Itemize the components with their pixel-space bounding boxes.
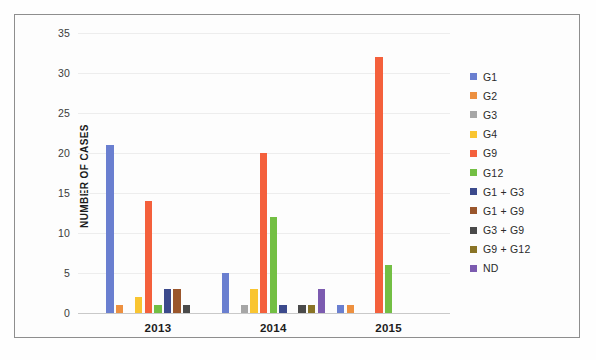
bar-G4-2014	[250, 289, 257, 313]
bar-slot	[278, 33, 288, 313]
legend-item-G1-plus-G3[interactable]: G1 + G3	[470, 182, 570, 201]
bar-slot	[230, 33, 240, 313]
bar-slot	[144, 33, 154, 313]
bar-slot	[307, 33, 317, 313]
bar-slot	[355, 33, 365, 313]
bar-slot	[297, 33, 307, 313]
legend-swatch-icon	[470, 227, 477, 234]
bar-G9-2013	[145, 201, 152, 313]
bar-G12-2014	[270, 217, 277, 313]
x-tick-label-2015: 2015	[375, 322, 402, 334]
legend-item-G9-plus-G12[interactable]: G9 + G12	[470, 240, 570, 259]
bar-slot	[316, 33, 326, 313]
bar-slot	[249, 33, 259, 313]
bar-G9-plus-G12-2014	[308, 305, 315, 313]
bar-slot	[240, 33, 250, 313]
bar-G3-2014	[241, 305, 248, 313]
legend-item-G1[interactable]: G1	[470, 67, 570, 86]
gridline-0: 0	[78, 313, 450, 314]
legend-item-label: G3 + G9	[483, 224, 524, 236]
legend-swatch-icon	[470, 73, 477, 80]
legend-item-G12[interactable]: G12	[470, 163, 570, 182]
chart-frame: NUMBER OF CASES 05101520253035 201320142…	[14, 14, 580, 338]
legend-swatch-icon	[470, 131, 477, 138]
bar-slot	[345, 33, 355, 313]
y-tick-label: 15	[58, 187, 70, 199]
bar-G3-plus-G9-2013	[183, 305, 190, 313]
bar-slot	[124, 33, 134, 313]
bar-group-2013: 2013	[105, 33, 211, 313]
y-tick-label: 10	[58, 227, 70, 239]
legend-item-G9[interactable]: G9	[470, 144, 570, 163]
legend-swatch-icon	[470, 207, 477, 214]
bar-G1-2015	[337, 305, 344, 313]
bar-G1-plus-G3-2013	[164, 289, 171, 313]
y-tick-label: 5	[64, 267, 70, 279]
bar-slot	[288, 33, 298, 313]
bar-slot	[393, 33, 403, 313]
legend-item-label: G9 + G12	[483, 243, 530, 255]
bar-G12-2013	[154, 305, 161, 313]
legend-swatch-icon	[470, 188, 477, 195]
bar-G9-2014	[260, 153, 267, 313]
bar-slot	[336, 33, 346, 313]
bar-G9-2015	[375, 57, 382, 313]
bar-slot	[201, 33, 211, 313]
bar-slot	[115, 33, 125, 313]
y-tick-label: 0	[64, 307, 70, 319]
legend-item-label: ND	[483, 262, 499, 274]
bar-G1-plus-G9-2013	[173, 289, 180, 313]
bar-G1-2014	[222, 273, 229, 313]
legend-swatch-icon	[470, 92, 477, 99]
bar-slot	[432, 33, 442, 313]
bar-G4-2013	[135, 297, 142, 313]
legend-swatch-icon	[470, 246, 477, 253]
x-tick-label-2014: 2014	[260, 322, 287, 334]
figure: NUMBER OF CASES 05101520253035 201320142…	[0, 0, 596, 360]
legend-item-label: G3	[483, 109, 497, 121]
bar-slot	[384, 33, 394, 313]
bar-slot	[374, 33, 384, 313]
legend-item-label: G1	[483, 71, 497, 83]
bar-G1-2013	[106, 145, 113, 313]
bar-slot	[403, 33, 413, 313]
x-tick-label-2013: 2013	[145, 322, 172, 334]
y-tick-label: 20	[58, 147, 70, 159]
bar-slot	[268, 33, 278, 313]
legend-swatch-icon	[470, 111, 477, 118]
legend-swatch-icon	[470, 150, 477, 157]
bar-slot	[422, 33, 432, 313]
legend-item-G1-plus-G9[interactable]: G1 + G9	[470, 201, 570, 220]
bar-ND-2014	[318, 289, 325, 313]
bar-slot	[172, 33, 182, 313]
legend-item-label: G2	[483, 90, 497, 102]
legend-swatch-icon	[470, 169, 477, 176]
bar-G12-2015	[385, 265, 392, 313]
legend-item-G2[interactable]: G2	[470, 86, 570, 105]
bar-slot	[221, 33, 231, 313]
bar-G2-2013	[116, 305, 123, 313]
legend-item-label: G12	[483, 167, 503, 179]
plot-area: 05101520253035 201320142015	[78, 33, 450, 313]
bar-slot	[259, 33, 269, 313]
legend-item-G3-plus-G9[interactable]: G3 + G9	[470, 221, 570, 240]
legend-item-label: G1 + G9	[483, 205, 524, 217]
legend-item-label: G9	[483, 147, 497, 159]
y-tick-label: 30	[58, 67, 70, 79]
legend-item-ND[interactable]: ND	[470, 259, 570, 278]
bar-slot	[413, 33, 423, 313]
bar-slot	[105, 33, 115, 313]
chart-legend: G1G2G3G4G9G12G1 + G3G1 + G9G3 + G9G9 + G…	[470, 67, 570, 278]
bar-G2-2015	[347, 305, 354, 313]
y-tick-label: 35	[58, 27, 70, 39]
bar-slot	[192, 33, 202, 313]
legend-item-label: G1 + G3	[483, 186, 524, 198]
legend-item-G3[interactable]: G3	[470, 105, 570, 124]
legend-item-label: G4	[483, 128, 497, 140]
bar-G1-plus-G3-2014	[279, 305, 286, 313]
bar-group-2014: 2014	[221, 33, 327, 313]
bar-G3-plus-G9-2014	[298, 305, 305, 313]
y-tick-label: 25	[58, 107, 70, 119]
legend-item-G4[interactable]: G4	[470, 125, 570, 144]
bar-slot	[134, 33, 144, 313]
